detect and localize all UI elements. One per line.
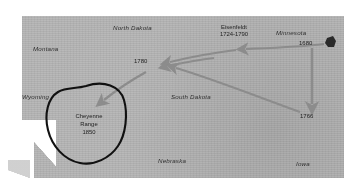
- migration-map-figure: Montana North Dakota Minnesota Wyoming S…: [0, 0, 362, 195]
- arrow-1766-to-hub: [176, 68, 300, 112]
- annotation-cheyenne-range-line1: Cheyenne: [58, 113, 120, 121]
- site-label-eisenfeld-dates: 1724-1790: [206, 31, 262, 39]
- state-label-iowa: Iowa: [296, 160, 310, 167]
- origin-site-marker: [325, 36, 336, 47]
- date-marker-1780: 1780: [134, 58, 147, 66]
- arrow-secondary-to-1780: [168, 58, 214, 66]
- state-label-montana: Montana: [33, 45, 58, 52]
- state-label-north-dakota: North Dakota: [113, 24, 152, 31]
- date-marker-1766: 1766: [300, 113, 313, 121]
- state-label-minnesota: Minnesota: [276, 29, 306, 36]
- state-label-south-dakota: South Dakota: [171, 93, 211, 100]
- state-label-wyoming: Wyoming: [22, 93, 49, 100]
- annotation-cheyenne-range-date: 1850: [58, 129, 120, 137]
- date-marker-1680: 1680: [299, 40, 312, 48]
- state-label-nebraska: Nebraska: [158, 157, 186, 164]
- annotation-cheyenne-range-line2: Range: [58, 121, 120, 129]
